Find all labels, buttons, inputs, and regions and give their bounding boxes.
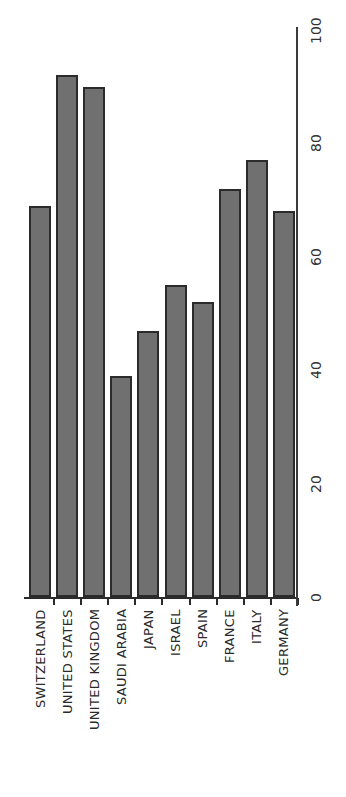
category-label: SWITZERLAND xyxy=(33,609,48,708)
category-tick xyxy=(53,598,55,605)
y-tick-label: 80 xyxy=(308,135,324,153)
bar-chart: SWITZERLANDUNITED STATESUNITED KINGDOMSA… xyxy=(0,0,346,797)
category-tick xyxy=(270,598,272,605)
y-tick-label: 20 xyxy=(308,475,324,493)
category-label: SPAIN xyxy=(195,609,210,648)
bar xyxy=(83,87,105,597)
y-axis-line xyxy=(296,27,298,606)
y-tick-label: 100 xyxy=(308,17,324,44)
bar xyxy=(110,376,132,597)
category-tick xyxy=(243,598,245,605)
category-label: JAPAN xyxy=(141,609,156,649)
bar xyxy=(137,331,159,597)
category-label: SAUDI ARABIA xyxy=(114,609,129,705)
bar xyxy=(192,302,214,597)
category-label: GERMANY xyxy=(276,609,291,676)
y-tick-label: 40 xyxy=(308,361,324,379)
category-label: UNITED STATES xyxy=(60,609,75,714)
category-tick xyxy=(161,598,163,605)
bar xyxy=(219,189,241,597)
category-tick xyxy=(80,598,82,605)
category-tick xyxy=(216,598,218,605)
bar xyxy=(165,285,187,597)
category-label: UNITED KINGDOM xyxy=(87,609,102,730)
bar xyxy=(56,75,78,597)
category-label: ISRAEL xyxy=(168,609,183,656)
category-tick xyxy=(107,598,109,605)
category-label: ITALY xyxy=(249,609,264,644)
bar xyxy=(246,160,268,597)
category-tick xyxy=(134,598,136,605)
bar xyxy=(273,211,295,597)
category-tick xyxy=(189,598,191,605)
y-tick-label: 0 xyxy=(308,593,324,602)
y-tick-label: 60 xyxy=(308,248,324,266)
x-axis-baseline xyxy=(24,597,298,599)
bar xyxy=(29,206,51,597)
category-label: FRANCE xyxy=(222,609,237,663)
